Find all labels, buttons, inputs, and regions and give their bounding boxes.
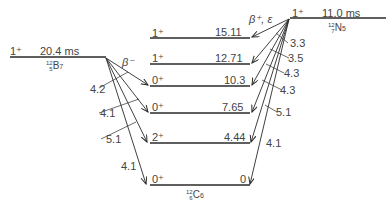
nitrogen-spin-parity: 1⁺: [292, 8, 304, 19]
c12-spin-parity-3: 0⁺: [152, 75, 164, 86]
beta-plus-logft-5: 5.1: [276, 107, 291, 118]
c12-energy-3: 10.3: [224, 75, 245, 86]
beta-plus-arrow-4.44: [251, 19, 289, 142]
c12-energy-5: 4.44: [224, 132, 245, 143]
boron-spin-parity: 1⁺: [10, 46, 22, 57]
c12-energy-2: 12.71: [215, 53, 243, 64]
element-symbol: N: [335, 22, 342, 33]
beta-minus-logft-1: 4.2: [90, 84, 105, 95]
neutron-number: 6: [200, 192, 204, 199]
carbon-nuclide-label: 126C6: [186, 189, 204, 201]
boron-half-life: 20.4 ms: [40, 46, 79, 57]
c12-spin-parity-1: 1⁺: [152, 28, 164, 39]
beta-minus-logft-2: 4.1: [100, 108, 115, 119]
beta-minus-label: β⁻: [122, 57, 134, 68]
beta-plus-logft-1: 3.3: [290, 38, 305, 49]
boron-nuclide-label: 125B7: [46, 60, 63, 72]
beta-minus-arrow-4.44: [106, 58, 147, 142]
c12-energy-4: 7.65: [222, 102, 243, 113]
c12-spin-parity-4: 0⁺: [152, 102, 164, 113]
beta-plus-logft-3: 4.3: [284, 68, 299, 79]
c12-spin-parity-2: 1⁺: [152, 53, 164, 64]
c12-spin-parity-6: 0⁺: [152, 174, 164, 185]
beta-minus-logft-4: 4.1: [121, 161, 136, 172]
nitrogen-half-life: 11.0 ms: [322, 8, 360, 19]
nitrogen-nuclide-label: 127N5: [328, 22, 346, 34]
c12-energy-6: 0: [240, 174, 246, 185]
neutron-number: 7: [59, 63, 63, 70]
beta-minus-logft-3: 5.1: [106, 134, 121, 145]
c12-energy-1: 15.11: [215, 27, 242, 38]
neutron-number: 5: [342, 25, 346, 32]
element-symbol: C: [193, 189, 200, 200]
beta-plus-logft-4: 4.3: [280, 85, 295, 96]
beta-plus-ec-label: β⁺, ε: [249, 14, 272, 25]
c12-spin-parity-5: 2⁺: [152, 132, 164, 143]
beta-plus-logft-6: 4.1: [266, 138, 281, 149]
beta-plus-logft-2: 3.5: [288, 53, 303, 64]
